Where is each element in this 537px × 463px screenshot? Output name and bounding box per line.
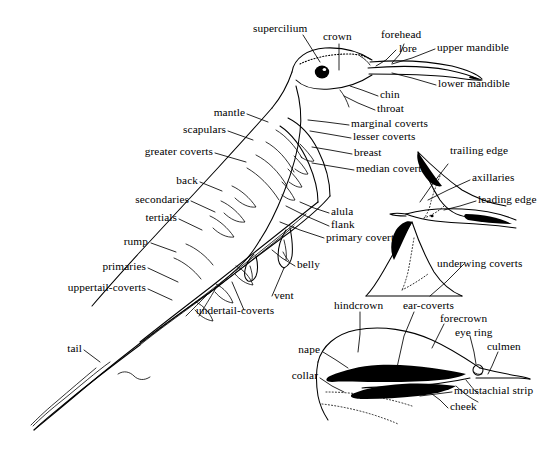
label-rump: rump (90, 236, 148, 248)
label-cheek: cheek (450, 401, 477, 413)
label-marginal-coverts: marginal coverts (351, 118, 428, 130)
label-tertials: tertials (105, 212, 177, 224)
label-back: back (120, 175, 198, 187)
label-greater-coverts: greater coverts (105, 146, 213, 158)
label-belly: belly (297, 259, 320, 271)
label-culmen: culmen (487, 341, 521, 353)
label-leading-edge: leading edge (478, 194, 537, 206)
label-lore: lore (399, 43, 417, 55)
label-chin: chin (380, 89, 400, 101)
label-axillaries: axillaries (472, 172, 514, 184)
label-lower-mandible: lower mandible (438, 78, 510, 90)
label-flank: flank (331, 219, 355, 231)
label-scapulars: scapulars (128, 124, 226, 136)
label-vent: vent (274, 290, 294, 302)
label-uppertail-coverts: uppertail-coverts (36, 282, 146, 294)
label-upper-mandible: upper mandible (437, 42, 509, 54)
label-median-coverts: median coverts (356, 163, 426, 175)
label-lesser-coverts: lesser coverts (353, 131, 416, 143)
label-hindcrown: hindcrown (334, 300, 383, 312)
label-forehead: forehead (381, 29, 421, 41)
label-mantle: mantle (147, 107, 245, 119)
label-eye-ring: eye ring (455, 327, 493, 339)
label-moustachial-stripe: moustachial strip (454, 385, 533, 397)
label-crown: crown (323, 31, 352, 43)
label-breast: breast (354, 147, 382, 159)
label-throat: throat (377, 103, 404, 115)
label-trailing-edge: trailing edge (450, 145, 508, 157)
label-supercilium: supercilium (253, 23, 307, 35)
label-forecrown: forecrown (440, 313, 487, 325)
label-secondaries: secondaries (99, 194, 189, 206)
label-tail: tail (38, 343, 82, 355)
label-alula: alula (331, 206, 353, 218)
label-primary-coverts: primary coverts (326, 232, 399, 244)
label-primaries: primaries (68, 261, 146, 273)
label-nape: nape (270, 344, 320, 356)
label-undertail-coverts: undertail-coverts (196, 305, 274, 317)
label-ear-coverts: ear-coverts (403, 300, 454, 312)
label-collar: collar (266, 370, 318, 382)
label-underwing-coverts: underwing coverts (437, 258, 522, 270)
